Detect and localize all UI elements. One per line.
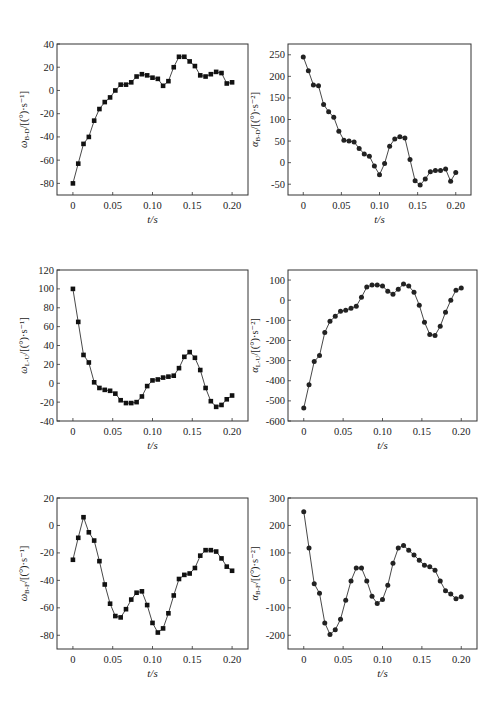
data-point (417, 303, 422, 308)
y-axis-label: ωL-U/[(°)·s⁻¹] (18, 317, 31, 373)
data-point (140, 589, 145, 594)
data-point (377, 172, 382, 177)
data-point (76, 536, 81, 541)
data-point (177, 577, 182, 582)
data-point (177, 366, 182, 371)
data-point (108, 389, 113, 394)
data-point (402, 136, 407, 141)
y-tick-label: 0 (280, 157, 285, 168)
x-axis-label: t/s (377, 667, 387, 679)
data-line (73, 517, 232, 632)
data-point (203, 74, 208, 79)
y-tick-label: 100 (269, 547, 285, 558)
data-point (408, 157, 413, 162)
data-point (219, 71, 224, 76)
data-point (108, 601, 113, 606)
y-tick-label: 250 (269, 49, 285, 60)
x-tick-label: 0.20 (223, 654, 241, 665)
data-point (219, 403, 224, 408)
data-point (203, 548, 208, 553)
y-tick-label: 0 (49, 378, 54, 389)
x-tick-label: 0.10 (373, 654, 391, 665)
data-point (97, 559, 102, 564)
data-point (161, 375, 166, 380)
data-point (209, 548, 214, 553)
y-tick-label: 100 (269, 114, 285, 125)
data-point (370, 594, 375, 599)
data-point (364, 285, 369, 290)
y-tick-label: 200 (269, 520, 285, 531)
plot-area (288, 270, 477, 421)
x-tick-label: 0.20 (223, 426, 241, 437)
data-point (124, 607, 129, 612)
data-point (182, 54, 187, 59)
data-point (453, 596, 458, 601)
x-tick-label: 0.05 (334, 426, 352, 437)
x-tick-label: 0.15 (413, 426, 431, 437)
plot-area (288, 498, 477, 649)
data-point (129, 80, 134, 85)
data-point (145, 73, 150, 78)
data-point (417, 558, 422, 563)
x-tick-label: 0 (301, 200, 306, 211)
data-point (108, 95, 113, 100)
x-tick-label: 0.10 (143, 200, 161, 211)
data-point (349, 578, 354, 583)
y-tick-label: 80 (44, 302, 55, 313)
data-point (422, 320, 427, 325)
data-point (433, 568, 438, 573)
data-point (443, 588, 448, 593)
data-point (150, 621, 155, 626)
data-point (209, 399, 214, 404)
data-point (102, 100, 107, 105)
data-point (140, 72, 145, 77)
data-point (364, 578, 369, 583)
data-point (357, 146, 362, 151)
data-point (396, 287, 401, 292)
data-point (129, 597, 134, 602)
data-point (193, 355, 198, 360)
data-point (396, 545, 401, 550)
data-line (304, 512, 462, 635)
data-point (71, 181, 76, 186)
x-axis-label: t/s (147, 667, 157, 679)
data-point (406, 548, 411, 553)
data-point (375, 283, 380, 288)
data-point (347, 139, 352, 144)
data-point (443, 167, 448, 172)
data-point (397, 134, 402, 139)
x-axis-label: t/s (377, 439, 387, 451)
data-point (224, 397, 229, 402)
data-point (354, 304, 359, 309)
data-point (134, 74, 139, 79)
x-tick-label: 0.10 (370, 200, 388, 211)
data-point (76, 161, 81, 166)
x-tick-label: 0.10 (373, 426, 391, 437)
y-tick-label: -300 (266, 355, 285, 366)
data-point (301, 509, 306, 514)
data-point (140, 394, 145, 399)
data-point (333, 314, 338, 319)
data-point (311, 82, 316, 87)
data-point (171, 593, 176, 598)
data-point (156, 630, 161, 635)
data-point (375, 601, 380, 606)
y-axis-label: αL-U/[(°)·s⁻²] (250, 318, 262, 373)
data-point (312, 581, 317, 586)
data-point (443, 310, 448, 315)
plot-area (57, 270, 248, 421)
plot-area (57, 44, 248, 195)
data-point (301, 405, 306, 410)
data-point (182, 355, 187, 360)
x-tick-label: 0 (70, 654, 75, 665)
data-point (428, 169, 433, 174)
data-point (301, 54, 306, 59)
y-tick-label: -200 (266, 630, 285, 641)
chart-omega-lu: 00.050.100.150.20-40-20020406080100120t/… (0, 230, 253, 469)
y-tick-label: 100 (38, 283, 54, 294)
data-point (214, 405, 219, 410)
y-tick-label: 20 (44, 62, 55, 73)
data-point (224, 81, 229, 86)
y-tick-label: 0 (49, 520, 54, 531)
data-point (331, 115, 336, 120)
